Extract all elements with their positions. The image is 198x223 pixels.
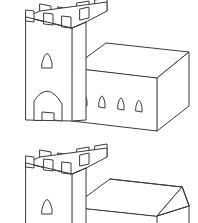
bottom-figure-group xyxy=(26,144,189,223)
merlon2-front-4 xyxy=(80,153,89,166)
illustration-canvas xyxy=(0,0,198,223)
merlon2-front-1 xyxy=(26,156,34,168)
figure-bottom xyxy=(0,0,198,223)
tower2-right-face xyxy=(72,168,86,223)
